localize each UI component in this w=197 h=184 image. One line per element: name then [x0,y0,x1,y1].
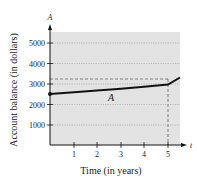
x-tick-label: 1 [72,150,76,159]
chart: 5000 4000 3000 2000 1000 1 2 3 4 5 A t T… [0,0,197,184]
x-tick-label: 4 [142,150,146,159]
y-axis-arrow-icon [48,24,52,30]
y-tick-label: 2000 [29,101,45,110]
start-point [48,92,52,96]
y-tick-label: 4000 [29,60,45,69]
x-tick-label: 5 [166,150,170,159]
x-axis-title: Time (in years) [80,165,141,177]
x-axis-variable: t [190,141,193,150]
curve-label: A [107,92,115,103]
x-axis-arrow-icon [181,143,187,147]
y-axis-title: Account balance (in dollars) [8,33,20,147]
x-tick-label: 2 [95,150,99,159]
y-tick-label: 5000 [29,39,45,48]
y-tick-label: 3000 [29,80,45,89]
x-tick-label: 3 [119,150,123,159]
y-axis-variable: A [47,13,53,22]
y-tick-label: 1000 [29,121,45,130]
